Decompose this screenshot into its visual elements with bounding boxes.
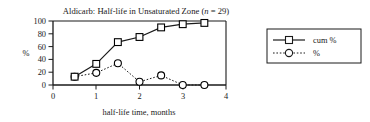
y-tick-label-40: 40: [38, 55, 46, 64]
data-point: [158, 72, 165, 79]
x-tick-label-3: 3: [181, 92, 185, 101]
chart-figure: Aldicarb: Half-life in Unsaturated Zone …: [0, 0, 370, 122]
data-point: [136, 78, 143, 85]
data-point: [71, 73, 78, 80]
y-tick-label-0: 0: [42, 81, 46, 90]
data-point: [201, 20, 208, 27]
cum-percent-line: [75, 23, 205, 77]
series-cumulative-percent: [71, 20, 208, 81]
data-point: [136, 34, 143, 41]
legend-marker-circle-icon: [285, 49, 292, 56]
y-tick-label-80: 80: [38, 30, 46, 39]
legend-label-cum-percent: cum %: [313, 36, 337, 45]
x-tick-label-2: 2: [137, 92, 141, 101]
x-tick-label-1: 1: [94, 92, 98, 101]
legend-label-percent: %: [313, 49, 320, 58]
y-tick-label-60: 60: [38, 43, 46, 52]
x-tick-label-4: 4: [224, 92, 229, 101]
chart-legend: cum % %: [267, 29, 361, 63]
data-point: [93, 60, 100, 67]
cum-percent-markers: [71, 20, 208, 81]
y-axis-label: %: [23, 49, 30, 58]
data-point: [201, 82, 208, 89]
data-point: [114, 39, 121, 46]
legend-marker-square-icon: [286, 37, 293, 44]
y-tick-label-100: 100: [33, 17, 46, 26]
chart-title: Aldicarb: Half-life in Unsaturated Zone …: [63, 6, 230, 16]
x-axis-tick-labels: 0 1 2 3 4: [51, 92, 229, 101]
series-percent: [71, 60, 208, 89]
y-tick-label-20: 20: [38, 68, 46, 77]
half-life-line-chart: Aldicarb: Half-life in Unsaturated Zone …: [0, 0, 370, 122]
plot-frame: [53, 21, 226, 85]
y-axis-ticks: [49, 21, 54, 85]
data-point: [179, 82, 186, 89]
data-point: [179, 21, 186, 28]
chart-title-main: Aldicarb: Half-life in Unsaturated Zone …: [63, 6, 205, 16]
data-point: [93, 69, 100, 76]
data-point: [114, 60, 121, 67]
y-axis-tick-labels: 0 20 40 60 80 100: [33, 17, 46, 90]
data-point: [158, 24, 165, 31]
x-axis-label: half-life time, months: [103, 108, 176, 117]
x-tick-label-0: 0: [51, 92, 55, 101]
chart-title-tail: = 29): [209, 6, 230, 16]
